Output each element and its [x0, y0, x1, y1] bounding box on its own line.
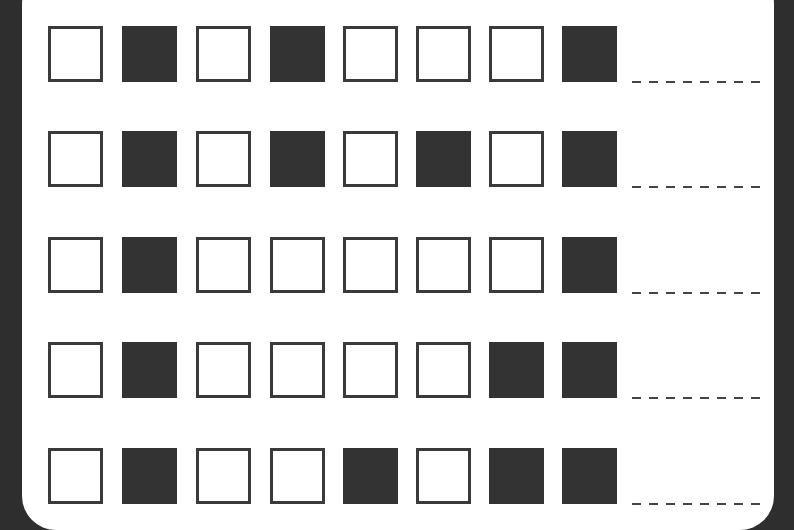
answer-blank-line[interactable] [632, 503, 764, 505]
filled-bit-square [489, 342, 544, 398]
empty-bit-square [343, 237, 398, 293]
binary-row [48, 26, 768, 82]
filled-bit-square [270, 26, 325, 82]
filled-bit-square [416, 131, 471, 187]
binary-row [48, 342, 768, 398]
filled-bit-square [562, 26, 617, 82]
empty-bit-square [270, 448, 325, 504]
binary-row [48, 131, 768, 187]
answer-blank-line[interactable] [632, 292, 764, 294]
filled-bit-square [122, 131, 177, 187]
empty-bit-square [48, 26, 103, 82]
filled-bit-square [562, 131, 617, 187]
filled-bit-square [489, 448, 544, 504]
answer-blank-line[interactable] [632, 397, 764, 399]
empty-bit-square [343, 342, 398, 398]
filled-bit-square [562, 448, 617, 504]
empty-bit-square [416, 342, 471, 398]
empty-bit-square [48, 448, 103, 504]
filled-bit-square [122, 26, 177, 82]
empty-bit-square [270, 237, 325, 293]
filled-bit-square [122, 342, 177, 398]
binary-row [48, 448, 768, 504]
empty-bit-square [196, 26, 251, 82]
empty-bit-square [416, 448, 471, 504]
empty-bit-square [196, 237, 251, 293]
filled-bit-square [343, 448, 398, 504]
empty-bit-square [48, 131, 103, 187]
empty-bit-square [48, 342, 103, 398]
empty-bit-square [416, 237, 471, 293]
empty-bit-square [196, 131, 251, 187]
filled-bit-square [562, 342, 617, 398]
empty-bit-square [489, 26, 544, 82]
empty-bit-square [270, 342, 325, 398]
filled-bit-square [270, 131, 325, 187]
answer-blank-line[interactable] [632, 186, 764, 188]
empty-bit-square [416, 26, 471, 82]
filled-bit-square [562, 237, 617, 293]
filled-bit-square [122, 237, 177, 293]
answer-blank-line[interactable] [632, 81, 764, 83]
empty-bit-square [196, 342, 251, 398]
filled-bit-square [122, 448, 177, 504]
empty-bit-square [489, 131, 544, 187]
empty-bit-square [48, 237, 103, 293]
empty-bit-square [489, 237, 544, 293]
empty-bit-square [343, 26, 398, 82]
empty-bit-square [343, 131, 398, 187]
empty-bit-square [196, 448, 251, 504]
binary-row [48, 237, 768, 293]
